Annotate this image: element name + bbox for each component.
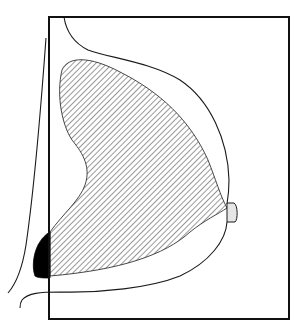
pectoral-region xyxy=(33,232,50,278)
glandular-tissue xyxy=(50,60,227,276)
breast-diagram xyxy=(0,0,301,332)
nipple xyxy=(227,203,237,222)
diagram-canvas xyxy=(0,0,301,332)
